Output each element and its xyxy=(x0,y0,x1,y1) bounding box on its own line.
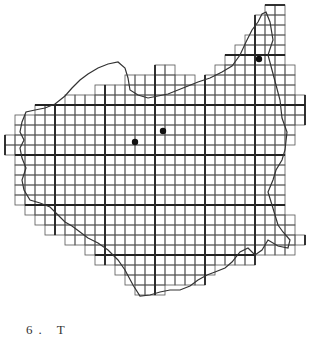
grid-cell xyxy=(145,75,155,85)
grid-cell xyxy=(255,45,265,55)
grid-cell xyxy=(205,205,215,215)
grid-cell xyxy=(135,225,145,235)
grid-cell xyxy=(145,195,155,205)
grid-cell xyxy=(155,75,165,85)
grid-cell xyxy=(205,235,215,245)
grid-cell xyxy=(255,85,265,95)
grid-cell xyxy=(255,175,265,185)
grid-cell xyxy=(285,225,295,235)
grid-cell xyxy=(145,215,155,225)
grid-cell xyxy=(35,205,45,215)
grid-cell xyxy=(245,125,255,135)
grid-cell xyxy=(255,215,265,225)
grid-cell xyxy=(125,175,135,185)
grid-cell xyxy=(185,95,195,105)
grid-cell xyxy=(245,135,255,145)
grid-cell xyxy=(115,135,125,145)
grid-cell xyxy=(105,85,115,95)
grid-cell xyxy=(225,95,235,105)
grid-cell xyxy=(45,165,55,175)
grid-cell xyxy=(195,255,205,265)
grid-cell xyxy=(275,205,285,215)
grid-cell xyxy=(105,205,115,215)
grid-cell xyxy=(175,245,185,255)
grid-cell xyxy=(175,225,185,235)
location-markers xyxy=(132,56,262,145)
grid-cell xyxy=(285,95,295,105)
grid-cell xyxy=(245,45,255,55)
grid-cell xyxy=(155,255,165,265)
grid-cell xyxy=(95,145,105,155)
grid-cell xyxy=(185,195,195,205)
grid-cell xyxy=(255,75,265,85)
grid-cell xyxy=(95,185,105,195)
grid-cell xyxy=(215,115,225,125)
grid-cell xyxy=(165,175,175,185)
grid-cell xyxy=(195,175,205,185)
grid-cell xyxy=(295,115,305,125)
grid-cell xyxy=(295,105,305,115)
grid-cell xyxy=(75,195,85,205)
grid-cell xyxy=(215,165,225,175)
grid-cell xyxy=(245,145,255,155)
grid-cell xyxy=(215,255,225,265)
grid-cell xyxy=(35,185,45,195)
grid-cell xyxy=(35,125,45,135)
grid-cell xyxy=(85,225,95,235)
grid-cell xyxy=(235,175,245,185)
grid-cell xyxy=(265,115,275,125)
grid-cell xyxy=(25,205,35,215)
grid-cell xyxy=(165,205,175,215)
grid-cell xyxy=(155,165,165,175)
grid-cell xyxy=(195,105,205,115)
grid-cell xyxy=(85,135,95,145)
grid-cell xyxy=(115,85,125,95)
grid-cell xyxy=(245,175,255,185)
grid-cell xyxy=(245,105,255,115)
grid-cell xyxy=(195,165,205,175)
grid-cell xyxy=(75,105,85,115)
grid-cell xyxy=(5,135,15,145)
grid-cell xyxy=(65,205,75,215)
grid-cell xyxy=(155,205,165,215)
grid-cell xyxy=(85,165,95,175)
grid-cell xyxy=(285,105,295,115)
grid-cell xyxy=(245,65,255,75)
grid-cell xyxy=(235,225,245,235)
grid-cell xyxy=(275,195,285,205)
grid-cell xyxy=(235,215,245,225)
grid-cell xyxy=(55,195,65,205)
grid-cell xyxy=(145,155,155,165)
grid-cell xyxy=(255,95,265,105)
grid-cell xyxy=(205,245,215,255)
grid-cell xyxy=(245,95,255,105)
grid-cell xyxy=(65,115,75,125)
grid-cell xyxy=(45,195,55,205)
grid-cell xyxy=(215,205,225,215)
grid-cell xyxy=(235,105,245,115)
grid-cell xyxy=(225,195,235,205)
grid-cell xyxy=(235,135,245,145)
grid-cell xyxy=(75,205,85,215)
grid-cell xyxy=(165,185,175,195)
grid-cell xyxy=(185,135,195,145)
grid-cell xyxy=(155,135,165,145)
grid-cell xyxy=(95,235,105,245)
grid-cell xyxy=(25,115,35,125)
grid-cell xyxy=(165,115,175,125)
grid-cell xyxy=(215,245,225,255)
grid-cell xyxy=(185,145,195,155)
grid-cell xyxy=(45,155,55,165)
grid-cell xyxy=(75,185,85,195)
grid-cell xyxy=(185,185,195,195)
grid-cell xyxy=(195,85,205,95)
grid-cell xyxy=(35,155,45,165)
grid-cell xyxy=(275,135,285,145)
grid-cell xyxy=(155,225,165,235)
grid-cell xyxy=(135,195,145,205)
grid-cell xyxy=(225,85,235,95)
grid-cell xyxy=(145,255,155,265)
grid-cell xyxy=(125,75,135,85)
grid-cell xyxy=(145,105,155,115)
grid-cell xyxy=(205,125,215,135)
